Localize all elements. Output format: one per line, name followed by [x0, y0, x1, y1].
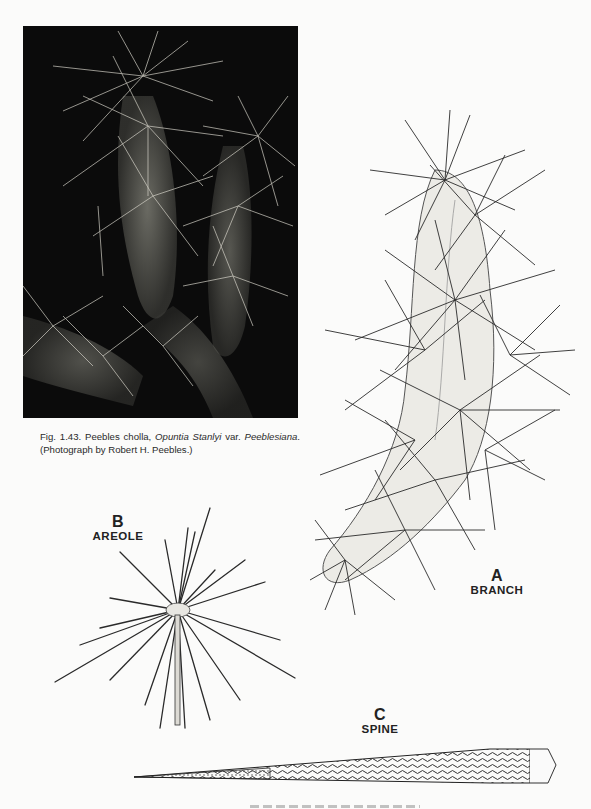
- photo-caption: Fig. 1.43. Peebles cholla, Opuntia Stanl…: [40, 430, 300, 456]
- label-spine-letter: C: [340, 706, 420, 723]
- caption-prefix: Fig. 1.43. Peebles cholla,: [40, 431, 155, 442]
- cactus-photo-image: [23, 26, 298, 418]
- label-branch-word: BRANCH: [462, 584, 532, 597]
- caption-var: var.: [221, 431, 244, 442]
- cholla-photograph: [23, 26, 298, 418]
- caption-variety: Peeblesiana: [245, 431, 298, 442]
- drawing-caption-partial: [250, 801, 420, 809]
- label-spine: C SPINE: [340, 706, 420, 736]
- caption-species: Opuntia Stanlyi: [155, 431, 221, 442]
- label-branch: A BRANCH: [462, 567, 532, 597]
- areole-drawing: [50, 500, 300, 730]
- label-spine-word: SPINE: [340, 723, 420, 736]
- branch-drawing: [305, 110, 580, 670]
- spine-drawing: [130, 745, 565, 785]
- spine-illustration: [130, 745, 565, 785]
- areole-illustration: [50, 500, 300, 730]
- label-branch-letter: A: [462, 567, 532, 584]
- drawing-caption-text: [250, 805, 420, 808]
- branch-illustration: [305, 110, 580, 670]
